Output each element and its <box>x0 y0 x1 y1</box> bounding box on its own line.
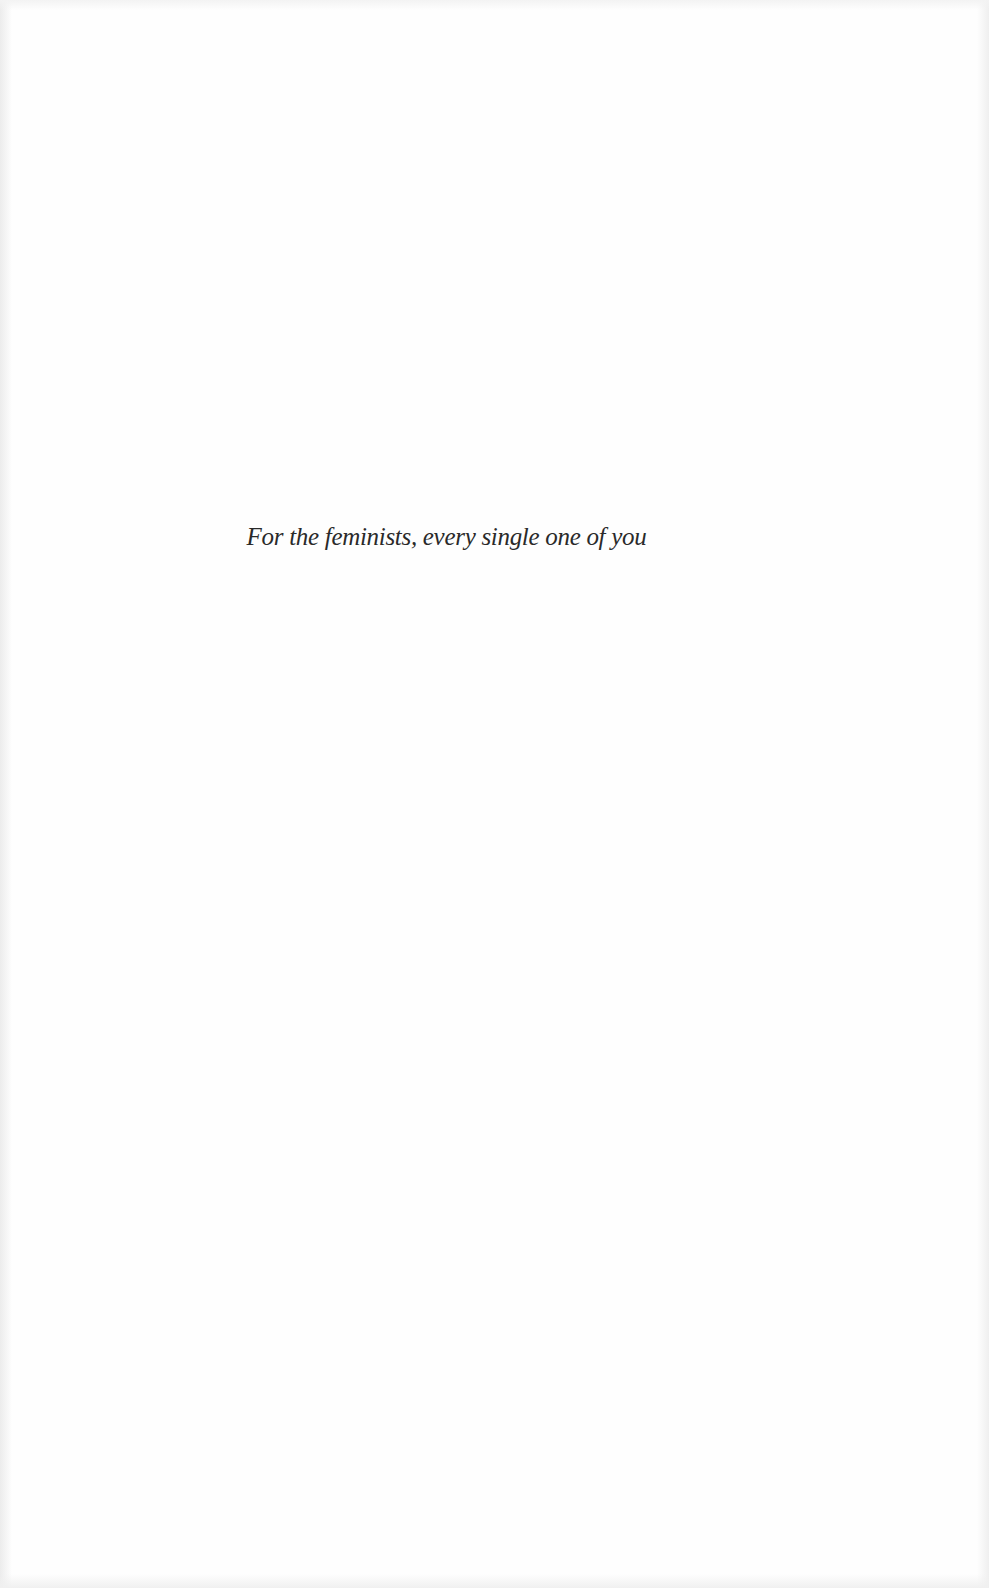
page-edge-shadow-right <box>977 0 989 1588</box>
page-edge-shadow-bottom <box>0 1574 989 1588</box>
dedication-text: For the feminists, every single one of y… <box>0 521 893 553</box>
page-edge-shadow-top <box>0 0 989 10</box>
page-edge-shadow-left <box>0 0 12 1588</box>
book-page: For the feminists, every single one of y… <box>0 0 989 1588</box>
